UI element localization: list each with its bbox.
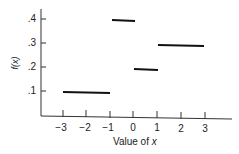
segment-4 <box>158 45 204 46</box>
x-tick-label: 3 <box>195 123 215 134</box>
x-tick-label: 2 <box>171 123 191 134</box>
x-axis-label: Value of x <box>113 136 157 147</box>
x-tick-label: 0 <box>123 122 143 133</box>
x-tick-label: −2 <box>75 122 95 133</box>
y-axis-label: f(x) <box>10 57 20 70</box>
x-tick-label: 1 <box>147 122 167 133</box>
axes <box>41 9 232 119</box>
x-tick-label: −3 <box>51 122 71 133</box>
segment-3 <box>134 69 158 70</box>
y-tick-label: .3 <box>16 37 36 48</box>
segment-2 <box>112 20 135 21</box>
x-tick-label: −1 <box>98 122 118 133</box>
y-tick-label: .4 <box>16 13 36 24</box>
x-axis <box>41 116 232 119</box>
step-segments <box>63 20 204 93</box>
y-tick-label: .1 <box>16 85 36 96</box>
segment-1 <box>63 92 110 93</box>
